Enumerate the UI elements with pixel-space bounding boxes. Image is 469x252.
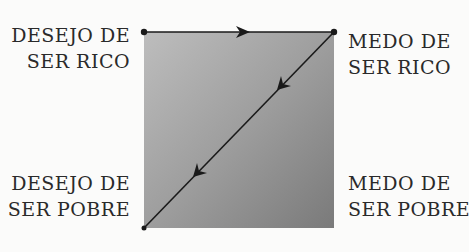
node-top-left xyxy=(141,29,147,35)
label-line: SER RICO xyxy=(348,54,451,80)
label-line: DESEJO DE xyxy=(0,170,130,196)
node-top-right xyxy=(331,29,337,35)
label-desejo-ser-rico: DESEJO DE SER RICO xyxy=(0,22,130,74)
node-bottom-left xyxy=(142,226,147,231)
label-line: MEDO DE xyxy=(348,28,451,54)
label-medo-ser-pobre: MEDO DE SER POBRE xyxy=(348,170,469,222)
label-line: SER POBRE xyxy=(348,196,469,222)
label-medo-ser-rico: MEDO DE SER RICO xyxy=(348,28,451,80)
label-line: MEDO DE xyxy=(348,170,469,196)
label-desejo-ser-pobre: DESEJO DE SER POBRE xyxy=(0,170,130,222)
label-line: DESEJO DE xyxy=(0,22,130,48)
label-line: SER RICO xyxy=(0,48,130,74)
label-line: SER POBRE xyxy=(0,196,130,222)
